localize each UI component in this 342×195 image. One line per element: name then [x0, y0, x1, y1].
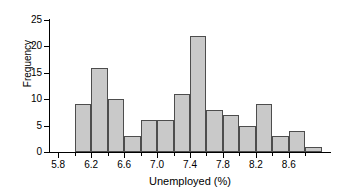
y-axis-tick	[44, 20, 49, 21]
x-axis-minor-tick	[141, 153, 142, 156]
histogram-bar	[272, 136, 288, 152]
x-axis-minor-tick	[206, 153, 207, 156]
x-axis-tick	[157, 153, 158, 158]
y-axis-tick-label: 25	[18, 15, 42, 25]
y-axis-tick	[44, 99, 49, 100]
plot-area	[50, 20, 330, 152]
y-axis-tick	[44, 152, 49, 153]
histogram-bar	[190, 36, 206, 152]
x-axis-minor-tick	[272, 153, 273, 156]
histogram-bar	[141, 120, 157, 152]
y-axis-tick	[44, 73, 49, 74]
y-axis-tick-label: 0	[18, 147, 42, 157]
x-axis-tick-label: 8.6	[274, 160, 304, 170]
y-axis-tick-label: 15	[18, 68, 42, 78]
histogram-bar	[206, 110, 222, 152]
histogram-bar	[157, 120, 173, 152]
histogram-bar	[256, 104, 272, 152]
x-axis-tick	[289, 153, 290, 158]
histogram-bar	[174, 94, 190, 152]
histogram-bar	[108, 99, 124, 152]
x-axis-tick-label: 7.4	[175, 160, 205, 170]
histogram-bar	[305, 147, 321, 152]
y-axis-tick-label: 10	[18, 94, 42, 104]
chart-page: Frequency 0510152025 5.86.26.67.07.47.88…	[0, 0, 342, 195]
x-axis-tick-label: 7.0	[142, 160, 172, 170]
x-axis-title: Unemployed (%)	[50, 175, 330, 187]
x-axis-minor-tick	[305, 153, 306, 156]
histogram-bar	[124, 136, 140, 152]
x-axis-tick-label: 6.2	[76, 160, 106, 170]
histogram-bar	[223, 115, 239, 152]
x-axis-tick	[124, 153, 125, 158]
y-axis-tick	[44, 46, 49, 47]
x-axis-minor-tick	[239, 153, 240, 156]
x-axis-minor-tick	[75, 153, 76, 156]
x-axis-tick	[223, 153, 224, 158]
y-axis-tick-label: 5	[18, 121, 42, 131]
x-axis-tick-label: 8.2	[241, 160, 271, 170]
histogram-bar	[91, 68, 107, 152]
x-axis-minor-tick	[108, 153, 109, 156]
x-axis-tick-label: 6.6	[109, 160, 139, 170]
x-axis-tick	[256, 153, 257, 158]
y-axis-title: Frequency	[22, 29, 33, 99]
histogram-bar	[239, 126, 255, 152]
x-axis-tick	[190, 153, 191, 158]
x-axis-tick	[58, 153, 59, 158]
x-axis-minor-tick	[174, 153, 175, 156]
x-axis-tick-label: 5.8	[43, 160, 73, 170]
histogram-bar	[289, 131, 305, 152]
x-axis-tick-label: 7.8	[208, 160, 238, 170]
histogram-bar	[75, 104, 91, 152]
y-axis-tick-label: 20	[18, 41, 42, 51]
y-axis-tick	[44, 126, 49, 127]
x-axis-tick	[91, 153, 92, 158]
